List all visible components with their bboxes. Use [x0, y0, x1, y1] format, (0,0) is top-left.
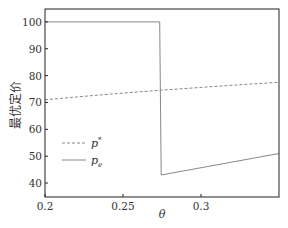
- y-tick-label: 90: [29, 43, 42, 55]
- legend-label-p-e: pe: [91, 154, 102, 169]
- y-axis-label: 最优定价: [8, 81, 23, 129]
- x-axis-label: θ: [159, 208, 166, 221]
- plot-frame: [45, 9, 279, 197]
- y-tick-label: 80: [29, 70, 42, 82]
- y-tick-label: 60: [29, 123, 42, 135]
- y-tick-label: 40: [29, 177, 42, 189]
- plot-lines: [45, 22, 279, 175]
- series-line-p-star: [45, 82, 279, 100]
- y-tick-label: 100: [22, 16, 42, 28]
- series-line-p-e: [45, 22, 279, 175]
- y-tick-label: 70: [29, 96, 42, 108]
- x-tick-label: 0.25: [111, 200, 134, 212]
- line-chart: 405060708090100 0.20.250.3 最优定价 θ p* pe: [0, 0, 288, 228]
- legend-label-p-star: p*: [91, 136, 102, 150]
- x-tick-label: 0.2: [37, 200, 54, 212]
- x-tick-label: 0.3: [193, 200, 210, 212]
- y-axis-ticks: 405060708090100: [22, 16, 48, 189]
- legend: p* pe: [62, 136, 102, 169]
- y-tick-label: 50: [29, 150, 42, 162]
